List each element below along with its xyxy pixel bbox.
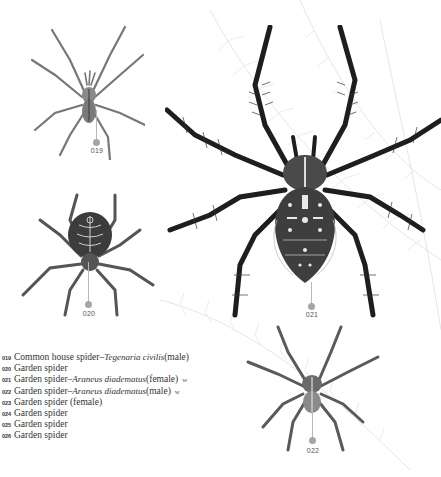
legend-number: 025: [2, 420, 14, 431]
legend-common-name: Garden spider: [14, 386, 68, 397]
legend-common-name: Garden spider: [14, 374, 68, 385]
figure-label-022: 022: [301, 447, 325, 454]
legend-item-022: 022 Garden spider – Araneus diadematus (…: [2, 386, 189, 397]
legend-scientific-name: Araneus diadematus: [72, 374, 146, 385]
marker-dot-021: [308, 303, 315, 310]
legend-scientific-name: Araneus diadematus: [72, 386, 146, 397]
legend-item-019: 019 Common house spider – Tegenaria civi…: [2, 352, 189, 363]
legend-number: 026: [2, 431, 14, 442]
legend-number: 022: [2, 387, 14, 398]
marker-dot-022: [309, 437, 316, 444]
legend-item-026: 026 Garden spider: [2, 430, 189, 441]
legend-common-name: Garden spider: [14, 363, 68, 374]
figure-label-021: 021: [300, 311, 324, 318]
illustration-plate: 019 020: [0, 0, 441, 477]
legend-common-name: Garden spider: [14, 419, 68, 430]
legend-item-024: 024 Garden spider: [2, 408, 189, 419]
figure-legend: 019 Common house spider – Tegenaria civi…: [2, 352, 189, 442]
marker-line-022: [312, 408, 313, 438]
legend-item-021: 021 Garden spider – Araneus diadematus (…: [2, 374, 189, 385]
legend-badge-icon: w: [182, 375, 187, 386]
legend-number: 020: [2, 364, 14, 375]
legend-number: 023: [2, 398, 14, 409]
legend-number: 024: [2, 409, 14, 420]
figure-label-020: 020: [77, 310, 101, 317]
marker-dot-020: [85, 301, 92, 308]
marker-line-019: [96, 110, 97, 140]
legend-note: (male): [164, 352, 189, 363]
legend-note: (female): [146, 374, 178, 385]
legend-common-name: Garden spider: [14, 408, 68, 419]
legend-number: 019: [2, 353, 14, 364]
spider-019-illustration: [30, 25, 145, 160]
legend-number: 021: [2, 375, 14, 386]
legend-common-name: Common house spider: [14, 352, 100, 363]
marker-line-021: [311, 282, 312, 304]
legend-scientific-name: Tegenaria civilis: [104, 352, 164, 363]
figure-label-019: 019: [85, 147, 109, 154]
marker-line-020: [88, 262, 89, 302]
marker-dot-019: [93, 139, 100, 146]
spider-020-illustration: [15, 190, 155, 320]
legend-item-020: 020 Garden spider: [2, 363, 189, 374]
legend-item-025: 025 Garden spider: [2, 419, 189, 430]
legend-badge-icon: w: [175, 387, 180, 398]
legend-common-name: Garden spider (female): [14, 397, 102, 408]
legend-note: (male): [146, 386, 171, 397]
legend-item-023: 023 Garden spider (female): [2, 397, 189, 408]
legend-common-name: Garden spider: [14, 430, 68, 441]
spider-021-illustration: [165, 25, 441, 335]
